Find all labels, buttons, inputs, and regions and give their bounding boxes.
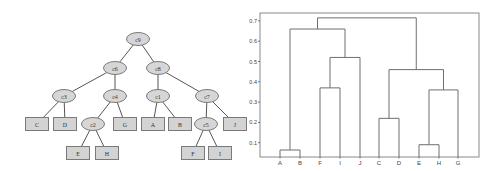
cluster-node-c3: c3 (53, 90, 76, 103)
node-label: A (151, 122, 156, 128)
y-axis-ticks: 0.10.20.30.40.50.60.7 (249, 18, 260, 146)
node-label: B (178, 122, 182, 128)
cluster-node-c6: c6 (104, 62, 127, 75)
node-label: G (123, 122, 128, 128)
dendrogram-links (280, 18, 458, 157)
node-label: c3 (61, 94, 67, 100)
cluster-node-c7: c7 (196, 90, 219, 103)
cluster-tree-diagram: c9c6c8c3c4c1c7c2c5CDGABJEHFI (26, 33, 247, 160)
leaf-node-D: D (54, 118, 77, 131)
leaf-node-A: A (142, 118, 165, 131)
dendrogram-frame (260, 13, 479, 157)
leaf-node-H: H (96, 147, 119, 160)
tree-nodes: c9c6c8c3c4c1c7c2c5CDGABJEHFI (26, 33, 247, 160)
leaf-node-G: G (114, 118, 137, 131)
y-tick-label: 0.6 (249, 38, 257, 44)
leaf-label-F: F (318, 160, 322, 166)
node-label: C (35, 122, 39, 128)
y-tick-label: 0.4 (249, 79, 257, 85)
leaf-node-I: I (209, 147, 232, 160)
cluster-node-c8: c8 (147, 62, 170, 75)
merge-c7 (330, 57, 360, 157)
node-label: c7 (204, 94, 210, 100)
leaf-label-C: C (377, 160, 382, 166)
leaf-label-A: A (278, 160, 282, 166)
node-label: c1 (155, 94, 161, 100)
cluster-node-c1: c1 (147, 90, 170, 103)
y-tick-label: 0.2 (249, 119, 257, 125)
y-tick-label: 0.7 (249, 18, 257, 24)
y-tick-label: 0.3 (249, 99, 257, 105)
merge-c9 (318, 18, 417, 70)
x-axis-leaf-labels: ABFIJCDEHG (278, 157, 461, 166)
node-label: c6 (112, 66, 118, 72)
y-tick-label: 0.1 (249, 140, 257, 146)
node-label: c8 (155, 66, 161, 72)
leaf-label-G: G (456, 160, 461, 166)
node-label: c4 (112, 94, 118, 100)
node-label: H (105, 151, 110, 157)
merge-c5 (320, 88, 340, 157)
leaf-label-I: I (339, 160, 341, 166)
node-label: I (219, 151, 221, 157)
cluster-node-c2: c2 (82, 118, 105, 131)
merge-c4 (429, 90, 458, 157)
merge-c6 (389, 70, 444, 119)
dendrogram-chart: 0.10.20.30.40.50.60.7 ABFIJCDEHG (249, 13, 479, 166)
cluster-node-c5: c5 (195, 118, 218, 131)
y-tick-label: 0.5 (249, 59, 257, 65)
cluster-node-c9: c9 (127, 33, 150, 46)
merge-c8 (290, 29, 345, 150)
merge-c3 (379, 118, 399, 157)
node-label: c5 (203, 122, 209, 128)
leaf-node-J: J (224, 118, 247, 131)
figure: c9c6c8c3c4c1c7c2c5CDGABJEHFI 0.10.20.30.… (0, 0, 502, 171)
node-label: D (63, 122, 68, 128)
cluster-node-c4: c4 (104, 90, 127, 103)
merge-c2 (419, 145, 439, 157)
leaf-node-C: C (26, 118, 49, 131)
node-label: E (76, 151, 80, 157)
leaf-label-B: B (298, 160, 302, 166)
leaf-node-F: F (182, 147, 205, 160)
node-label: c2 (90, 122, 96, 128)
leaf-label-D: D (397, 160, 402, 166)
leaf-label-H: H (437, 160, 441, 166)
node-label: c9 (135, 37, 141, 43)
merge-c1 (280, 150, 300, 157)
leaf-node-B: B (169, 118, 192, 131)
leaf-node-E: E (67, 147, 90, 160)
leaf-label-J: J (359, 160, 362, 166)
leaf-label-E: E (417, 160, 421, 166)
